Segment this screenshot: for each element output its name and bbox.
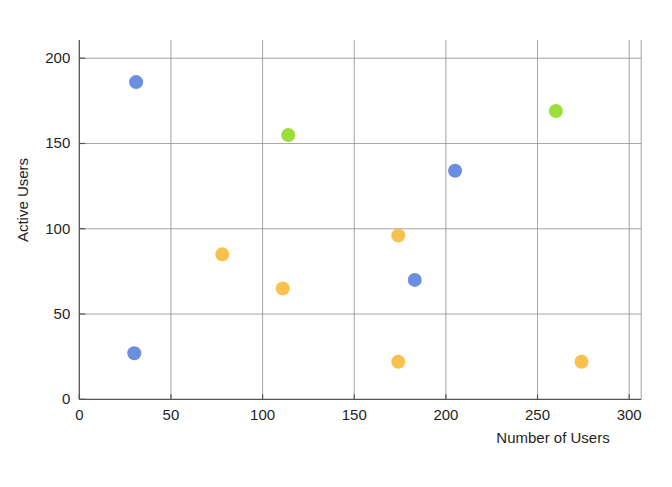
y-tick-label: 100 <box>45 220 70 237</box>
y-tick-label: 50 <box>54 305 71 322</box>
chart-figure: 050100150200250300 050100150200 Number o… <box>0 0 672 487</box>
data-point-orange <box>391 229 405 243</box>
x-tick-label: 200 <box>433 406 458 423</box>
x-tick-label: 250 <box>525 406 550 423</box>
x-tick-label: 300 <box>617 406 642 423</box>
x-tick-label: 0 <box>75 406 83 423</box>
x-tick-label: 150 <box>342 406 367 423</box>
y-tick-label: 200 <box>45 49 70 66</box>
data-point-blue <box>408 273 422 287</box>
y-axis-label: Active Users <box>14 158 31 242</box>
data-points <box>127 75 588 369</box>
y-tick-label: 0 <box>62 390 70 407</box>
data-point-orange <box>215 247 229 261</box>
x-tick-label: 50 <box>163 406 180 423</box>
y-tick-label: 150 <box>45 134 70 151</box>
data-point-blue <box>127 346 141 360</box>
data-point-blue <box>129 75 143 89</box>
data-point-blue <box>448 164 462 178</box>
data-point-green <box>281 128 295 142</box>
data-point-orange <box>276 281 290 295</box>
x-tick-labels: 050100150200250300 <box>75 406 642 423</box>
scatter-plot-canvas: 050100150200250300 050100150200 Number o… <box>0 0 672 487</box>
data-point-orange <box>391 355 405 369</box>
y-tick-labels: 050100150200 <box>45 49 70 407</box>
gridlines <box>79 40 641 399</box>
axes <box>79 40 641 399</box>
x-tick-label: 100 <box>250 406 275 423</box>
data-point-green <box>549 104 563 118</box>
data-point-orange <box>575 355 589 369</box>
x-axis-label: Number of Users <box>496 429 609 446</box>
